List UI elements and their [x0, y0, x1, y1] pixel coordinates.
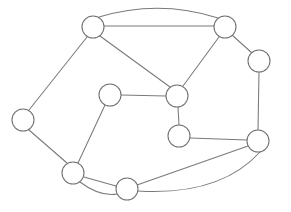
graph-edge [121, 95, 166, 96]
graph-edge [29, 130, 67, 163]
graph-edge [232, 35, 252, 53]
graph-node [214, 16, 236, 38]
graph-canvas [0, 0, 291, 212]
graph-edge [138, 152, 260, 192]
graph-node [168, 125, 190, 147]
graph-node [166, 85, 188, 107]
node-layer [12, 16, 270, 200]
graph-edge [190, 138, 247, 140]
graph-edge [99, 8, 218, 18]
graph-edge [183, 37, 219, 86]
graph-node [116, 178, 138, 200]
graph-edge [258, 72, 259, 130]
graph-node [12, 109, 34, 131]
graph-edge [178, 107, 179, 125]
graph-node [62, 162, 84, 184]
graph-edge [78, 105, 105, 163]
graph-edge [80, 182, 117, 195]
graph-node [99, 84, 121, 106]
graph-edge [100, 36, 170, 87]
graph-edge [137, 146, 248, 185]
graph-edge [84, 177, 116, 186]
graph-diagram [0, 0, 291, 212]
graph-node [248, 50, 270, 72]
graph-edge [29, 37, 87, 110]
graph-node [247, 130, 269, 152]
graph-node [82, 16, 104, 38]
